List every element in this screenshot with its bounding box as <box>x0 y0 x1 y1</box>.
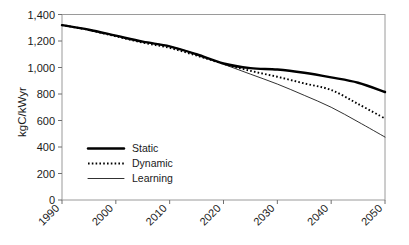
x-tick-label: 1990 <box>36 202 62 228</box>
line-chart: 02004006008001,0001,2001,400 19902000201… <box>0 0 409 245</box>
y-tick-label: 1,200 <box>27 35 55 47</box>
x-axis-ticks <box>62 200 385 204</box>
y-axis-title: kgC/kWyr <box>16 87 28 137</box>
y-axis-ticks <box>58 15 62 201</box>
x-axis-tick-labels: 1990200020102020203020402050 <box>36 202 385 228</box>
series-line-static <box>62 25 385 92</box>
chart-figure: 02004006008001,0001,2001,400 19902000201… <box>0 0 409 245</box>
y-tick-label: 1,400 <box>27 9 55 21</box>
plot-frame <box>62 15 385 201</box>
x-tick-label: 2020 <box>197 202 223 228</box>
series-line-dynamic <box>62 25 385 118</box>
legend-label-learning: Learning <box>132 172 173 184</box>
y-tick-label: 800 <box>37 88 55 100</box>
legend: Static Dynamic Learning <box>88 142 173 184</box>
y-axis-tick-labels: 02004006008001,0001,2001,400 <box>27 9 55 207</box>
series-line-learning <box>62 25 385 137</box>
legend-label-static: Static <box>132 142 158 154</box>
x-tick-label: 2000 <box>89 202 115 228</box>
y-tick-label: 400 <box>37 141 55 153</box>
y-tick-label: 1,000 <box>27 62 55 74</box>
x-tick-label: 2050 <box>359 202 385 228</box>
y-tick-label: 600 <box>37 115 55 127</box>
legend-label-dynamic: Dynamic <box>132 157 173 169</box>
y-tick-label: 200 <box>37 168 55 180</box>
x-tick-label: 2040 <box>305 202 331 228</box>
x-tick-label: 2030 <box>251 202 277 228</box>
x-tick-label: 2010 <box>143 202 169 228</box>
